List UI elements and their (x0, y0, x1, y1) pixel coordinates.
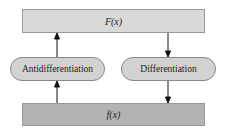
arrowhead-down-icon (166, 51, 171, 57)
arrows-layer (0, 0, 230, 139)
arrowhead-up-icon (55, 81, 60, 87)
arrowhead-down-icon (166, 97, 171, 103)
arrowhead-up-icon (55, 33, 60, 39)
